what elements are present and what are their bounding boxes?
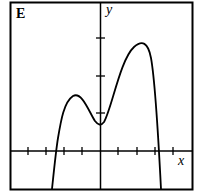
x-axis-label: x	[178, 153, 184, 169]
y-axis-label: y	[106, 2, 112, 18]
frame	[11, 3, 193, 190]
panel-label: E	[16, 6, 25, 22]
graph-panel	[0, 0, 201, 194]
